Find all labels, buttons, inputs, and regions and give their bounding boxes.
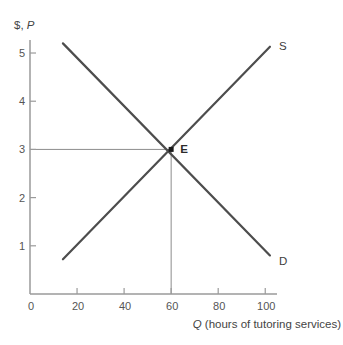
x-tick-label: 60 — [166, 300, 178, 312]
axis-titles: SDE$, PQ (hours of tutoring services) — [14, 19, 341, 330]
supply-curve — [63, 47, 270, 260]
x-tick-label: 20 — [72, 300, 84, 312]
x-tick-label: 0 — [28, 300, 34, 312]
equilibrium-label: E — [180, 143, 188, 155]
x-tick-label: 40 — [119, 300, 131, 312]
y-axis-title: $, P — [14, 19, 35, 31]
supply-curve-label: S — [279, 40, 287, 52]
x-tick-label: 100 — [257, 300, 275, 312]
axis-tick-labels: 02040608010012345 — [19, 47, 276, 312]
curves — [63, 43, 270, 259]
y-tick-label: 4 — [19, 95, 25, 107]
equilibrium-dot — [169, 147, 174, 152]
demand-curve-label: D — [279, 255, 287, 267]
y-tick-label: 5 — [19, 47, 25, 59]
x-axis-title: Q (hours of tutoring services) — [193, 318, 341, 330]
supply-demand-chart: 02040608010012345 SDE$, PQ (hours of tut… — [0, 0, 343, 345]
y-tick-label: 2 — [19, 192, 25, 204]
y-tick-label: 1 — [19, 240, 25, 252]
y-tick-label: 3 — [19, 143, 25, 155]
equilibrium-point — [169, 147, 174, 152]
x-tick-label: 80 — [213, 300, 225, 312]
supply-demand-figure: 02040608010012345 SDE$, PQ (hours of tut… — [0, 0, 343, 345]
